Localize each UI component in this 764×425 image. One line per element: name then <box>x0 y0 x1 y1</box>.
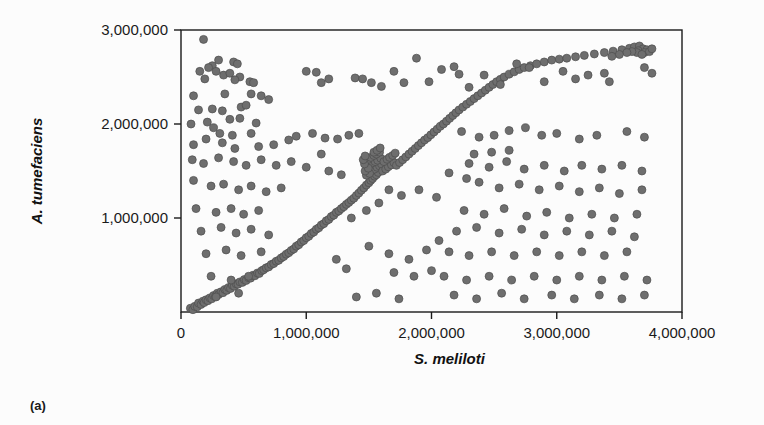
data-point <box>352 293 360 301</box>
data-point <box>578 248 586 256</box>
data-point <box>565 214 573 222</box>
data-point <box>395 295 403 303</box>
data-point <box>575 135 583 143</box>
data-point <box>210 124 218 132</box>
data-point <box>555 252 563 260</box>
data-point <box>496 81 504 89</box>
data-point <box>375 199 383 207</box>
data-point <box>578 161 586 169</box>
data-point <box>205 64 213 72</box>
data-point <box>230 158 238 166</box>
data-point <box>415 186 423 194</box>
data-point <box>376 144 384 152</box>
data-point <box>377 82 385 90</box>
data-point <box>412 54 420 62</box>
data-point <box>465 159 473 167</box>
data-point <box>200 159 208 167</box>
data-point <box>495 184 503 192</box>
data-point <box>485 163 493 171</box>
data-point <box>337 171 345 179</box>
data-point <box>285 136 293 144</box>
x-tick-label: 1,000,000 <box>273 324 340 341</box>
data-point <box>207 182 215 190</box>
data-point <box>600 69 608 77</box>
data-point <box>633 210 641 218</box>
data-point <box>543 208 551 216</box>
data-point <box>247 129 255 137</box>
data-point <box>608 52 616 60</box>
scatter-plot: 01,000,0002,000,0003,000,0004,000,0001,0… <box>0 0 764 425</box>
data-point <box>495 229 503 237</box>
data-point <box>640 133 648 141</box>
data-point <box>445 169 453 177</box>
data-point <box>540 78 548 86</box>
data-point <box>250 79 258 87</box>
data-point <box>540 161 548 169</box>
data-point <box>345 131 353 139</box>
data-point <box>218 107 226 115</box>
data-point <box>638 186 646 194</box>
data-point <box>538 131 546 139</box>
data-point <box>351 74 359 82</box>
data-point <box>325 167 333 175</box>
data-point <box>247 90 255 98</box>
data-point <box>623 248 631 256</box>
data-point <box>190 92 198 100</box>
data-point <box>332 255 340 263</box>
data-point <box>618 295 626 303</box>
data-point <box>520 165 528 173</box>
data-point <box>201 75 209 83</box>
y-axis-title: A. tumefaciens <box>28 118 45 226</box>
data-point <box>533 60 541 68</box>
data-point <box>648 45 656 53</box>
data-point <box>440 272 448 280</box>
data-point <box>570 295 578 303</box>
data-point <box>503 158 511 166</box>
data-point <box>593 131 601 139</box>
data-point <box>600 252 608 260</box>
data-point <box>247 225 255 233</box>
data-point <box>220 180 228 188</box>
data-point <box>463 276 471 284</box>
data-point <box>312 68 320 76</box>
data-point <box>385 186 393 194</box>
data-point <box>359 75 367 83</box>
data-point <box>530 272 538 280</box>
data-point <box>226 69 234 77</box>
data-point <box>231 76 239 84</box>
data-point <box>598 276 606 284</box>
data-point <box>265 96 273 104</box>
data-point <box>433 193 441 201</box>
data-point <box>520 295 528 303</box>
data-point <box>595 291 603 299</box>
data-point <box>215 154 223 162</box>
data-point <box>257 92 265 100</box>
data-point <box>620 272 628 280</box>
data-point <box>598 165 606 173</box>
data-point <box>231 144 239 152</box>
data-point <box>190 176 198 184</box>
x-axis-title: S. meliloti <box>414 350 486 367</box>
data-point <box>513 60 521 68</box>
data-point <box>257 156 265 164</box>
data-point <box>533 248 541 256</box>
data-point <box>623 128 631 136</box>
data-point <box>212 293 220 301</box>
data-point <box>585 231 593 239</box>
data-point <box>212 208 220 216</box>
data-point <box>455 70 463 78</box>
data-point <box>435 237 443 245</box>
data-point <box>555 182 563 190</box>
data-point <box>475 133 483 141</box>
data-point <box>262 188 270 196</box>
data-point <box>605 78 613 86</box>
data-point <box>498 289 506 297</box>
data-point <box>321 134 329 142</box>
data-point <box>390 269 398 277</box>
data-point <box>640 291 648 299</box>
y-tick-label: 1,000,000 <box>101 209 168 226</box>
data-point <box>563 54 571 62</box>
data-point <box>302 67 310 75</box>
data-point <box>317 79 325 87</box>
data-point <box>215 56 223 64</box>
